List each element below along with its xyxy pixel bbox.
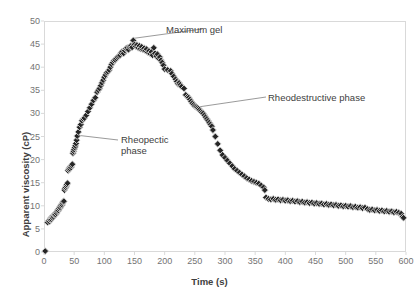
y-axis-title: Apparent viscosity (cP) (20, 110, 31, 260)
x-tick-label-350: 350 (240, 257, 270, 266)
x-tick-label-450: 450 (301, 257, 331, 266)
x-axis-title: Time (s) (0, 276, 419, 287)
x-tick-label-200: 200 (150, 257, 180, 266)
y-tick-label-50: 50 (14, 17, 40, 26)
x-tick-label-0: 0 (29, 257, 59, 266)
chart-figure: 05101520253035404550 0501001502002503003… (0, 0, 419, 298)
x-tick-label-100: 100 (89, 257, 119, 266)
x-tick-label-500: 500 (331, 257, 361, 266)
x-tick-label-50: 50 (59, 257, 89, 266)
plot-area (44, 21, 406, 252)
x-axis-tick-labels: 050100150200250300350400450500550600 (0, 257, 419, 271)
x-tick-label-300: 300 (210, 257, 240, 266)
annotation-maximum-gel: Maximum gel (166, 24, 223, 35)
y-tick-label-45: 45 (14, 40, 40, 49)
annotation-rheodestructive-phase: Rheodestructive phase (268, 92, 365, 103)
x-tick-label-150: 150 (120, 257, 150, 266)
x-tick-label-550: 550 (361, 257, 391, 266)
x-tick-label-250: 250 (180, 257, 210, 266)
x-tick-label-600: 600 (391, 257, 419, 266)
y-axis-title-box: Apparent viscosity (cP) (6, 60, 20, 210)
x-tick-label-400: 400 (270, 257, 300, 266)
annotation-rheopectic-phase: Rheopectic phase (121, 134, 169, 156)
